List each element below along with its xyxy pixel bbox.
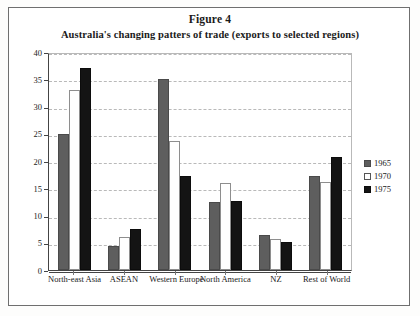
bar-1970-rest-of-world bbox=[320, 182, 331, 270]
figure-number: Figure 4 bbox=[0, 13, 420, 25]
y-tick-label: 30 bbox=[12, 102, 42, 112]
legend-item-1970: 1970 bbox=[364, 171, 391, 181]
plot-area bbox=[48, 53, 352, 271]
bar-group bbox=[301, 54, 351, 270]
x-tick-label: Rest of World bbox=[301, 274, 352, 284]
legend-swatch-1975 bbox=[364, 186, 371, 193]
y-tick-mark bbox=[44, 271, 48, 272]
y-tick-mark bbox=[44, 217, 48, 218]
figure-page: Figure 4 Australia's changing patters of… bbox=[0, 0, 420, 316]
x-tick-label: Western Europe bbox=[149, 274, 200, 284]
x-tick-mark bbox=[175, 271, 176, 275]
bar-group bbox=[99, 54, 149, 270]
y-tick-label: 20 bbox=[12, 157, 42, 167]
bar-group bbox=[200, 54, 250, 270]
bar-group bbox=[150, 54, 200, 270]
legend-item-1975: 1975 bbox=[364, 184, 391, 194]
y-tick-label: 35 bbox=[12, 75, 42, 85]
bar-1970-nz bbox=[270, 239, 281, 270]
x-tick-label: North-east Asia bbox=[48, 274, 99, 284]
bar-1965-nz bbox=[259, 235, 270, 270]
y-tick-mark bbox=[44, 80, 48, 81]
y-tick-label: 40 bbox=[12, 48, 42, 58]
y-tick-label: 25 bbox=[12, 129, 42, 139]
x-tick-label: NZ bbox=[251, 274, 302, 284]
y-tick-mark bbox=[44, 244, 48, 245]
bar-1970-asean bbox=[119, 237, 130, 270]
x-tick-label: North America bbox=[200, 274, 251, 284]
legend-item-1965: 1965 bbox=[364, 158, 391, 168]
x-axis-labels: North-east AsiaASEANWestern EuropeNorth … bbox=[48, 274, 352, 294]
y-tick-mark bbox=[44, 162, 48, 163]
bar-1970-north-east-asia bbox=[69, 90, 80, 270]
y-tick-label: 5 bbox=[12, 238, 42, 248]
legend: 196519701975 bbox=[364, 158, 391, 194]
y-tick-mark bbox=[44, 135, 48, 136]
bar-group bbox=[250, 54, 300, 270]
bar-1975-north-east-asia bbox=[80, 68, 91, 270]
bar-1965-rest-of-world bbox=[309, 176, 320, 270]
x-tick-mark bbox=[225, 271, 226, 275]
bar-1975-western-europe bbox=[180, 176, 191, 270]
bar-1970-north-america bbox=[220, 183, 231, 270]
y-tick-mark bbox=[44, 53, 48, 54]
x-tick-mark bbox=[327, 271, 328, 275]
bar-1975-rest-of-world bbox=[331, 157, 342, 270]
x-tick-label: ASEAN bbox=[99, 274, 150, 284]
y-tick-label: 15 bbox=[12, 184, 42, 194]
bar-1965-north-east-asia bbox=[58, 134, 69, 270]
bar-groups bbox=[49, 54, 351, 270]
y-tick-label: 0 bbox=[12, 266, 42, 276]
x-tick-mark bbox=[73, 271, 74, 275]
bar-1975-north-america bbox=[231, 201, 242, 270]
y-tick-label: 10 bbox=[12, 211, 42, 221]
bar-1975-asean bbox=[130, 229, 141, 270]
bar-1965-western-europe bbox=[158, 79, 169, 270]
bar-1965-north-america bbox=[209, 202, 220, 270]
legend-swatch-1970 bbox=[364, 173, 371, 180]
legend-label: 1975 bbox=[374, 184, 391, 194]
legend-swatch-1965 bbox=[364, 160, 371, 167]
x-tick-mark bbox=[276, 271, 277, 275]
bar-group bbox=[49, 54, 99, 270]
bar-1965-asean bbox=[108, 246, 119, 270]
legend-label: 1965 bbox=[374, 158, 391, 168]
bar-1970-western-europe bbox=[169, 141, 180, 270]
y-tick-mark bbox=[44, 189, 48, 190]
bar-1975-nz bbox=[281, 242, 292, 270]
gridline bbox=[49, 272, 351, 273]
y-tick-mark bbox=[44, 108, 48, 109]
x-tick-mark bbox=[124, 271, 125, 275]
legend-label: 1970 bbox=[374, 171, 391, 181]
